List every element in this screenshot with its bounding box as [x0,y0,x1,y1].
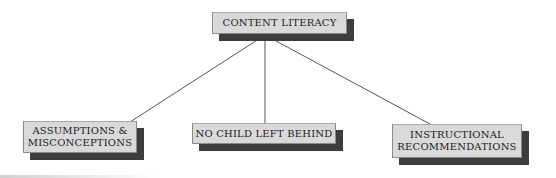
bottom-edge-strip [0,175,160,178]
node-assumptions-misconceptions: ASSUMPTIONS & MISCONCEPTIONS [23,121,137,153]
concept-diagram: CONTENT LITERACY ASSUMPTIONS & MISCONCEP… [0,0,556,178]
node-no-child-left-behind: NO CHILD LEFT BEHIND [192,123,336,144]
node-label: CONTENT LITERACY [223,17,337,29]
edge-root-to-assumptions [130,35,265,122]
node-instructional-recommendations: INSTRUCTIONAL RECOMMENDATIONS [392,124,522,158]
edge-root-to-instructional [265,35,430,124]
node-label-line2: RECOMMENDATIONS [397,141,516,153]
node-label-line1: INSTRUCTIONAL [410,129,504,141]
node-content-literacy: CONTENT LITERACY [212,12,347,34]
node-label: NO CHILD LEFT BEHIND [195,128,332,140]
node-label-line1: ASSUMPTIONS & [32,125,127,137]
node-label-line2: MISCONCEPTIONS [28,137,133,149]
